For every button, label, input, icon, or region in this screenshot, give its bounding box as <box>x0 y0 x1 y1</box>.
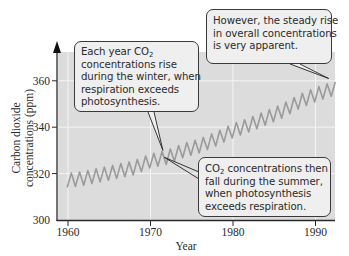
callout-summer-line-4: exceeds respiration. <box>205 201 324 214</box>
x-tick-label: 1970 <box>139 226 162 238</box>
x-axis-title: Year <box>175 240 196 252</box>
y-tick-label: 300 <box>33 214 51 226</box>
y-axis-title: Carbon dioxideconcentrations (ppm) <box>10 89 36 187</box>
x-tick-label: 1980 <box>222 226 245 238</box>
callout-summer: CO2 concentrations then fall during the … <box>198 157 331 217</box>
callout-winter-line-1: Each year CO2 <box>81 46 192 59</box>
y-tick-label: 340 <box>33 121 51 133</box>
callout-summer-line-1: CO2 concentrations then <box>205 163 324 176</box>
x-tick-label: 1990 <box>304 226 327 238</box>
callout-summer-line-3: when photosynthesis <box>205 188 324 201</box>
callout-winter: Each year CO2 concentrations rise during… <box>74 41 199 112</box>
callout-summer-line-2: fall during the summer, <box>205 176 324 189</box>
y-axis-title-line: concentrations (ppm) <box>23 89 36 187</box>
y-tick-label: 320 <box>33 168 51 180</box>
callout-trend-line-2: in overall concentrations <box>213 28 325 41</box>
callout-winter-line-4: respiration exceeds <box>81 84 192 97</box>
callout-winter-line-2: concentrations rise <box>81 59 192 72</box>
callout-winter-line-3: during the winter, when <box>81 71 192 84</box>
y-tick-label: 360 <box>33 75 51 87</box>
callout-trend-line-1: However, the steady rise <box>213 15 325 28</box>
x-tick-label: 1960 <box>57 226 80 238</box>
callout-winter-line-5: photosynthesis. <box>81 96 192 109</box>
y-axis-title-line: Carbon dioxide <box>10 102 22 173</box>
callout-trend-line-3: is very apparent. <box>213 40 325 53</box>
callout-trend: However, the steady rise in overall conc… <box>206 9 332 64</box>
